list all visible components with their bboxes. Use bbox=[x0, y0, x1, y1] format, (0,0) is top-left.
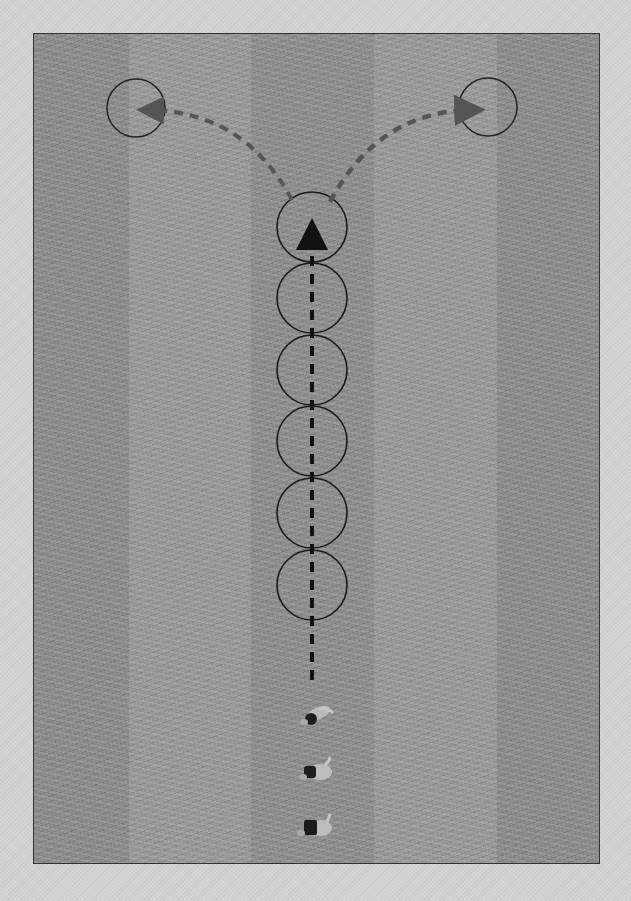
left-target-circle bbox=[107, 79, 165, 137]
player-1-icon bbox=[300, 703, 333, 725]
cone-circle-1 bbox=[277, 192, 347, 262]
player-2-icon bbox=[299, 757, 332, 780]
drill-overlay bbox=[0, 0, 631, 901]
right-branch-arrow bbox=[330, 110, 470, 202]
right-target-circle bbox=[459, 78, 517, 136]
left-branch-arrow bbox=[150, 110, 292, 200]
player-3-icon bbox=[297, 814, 332, 836]
